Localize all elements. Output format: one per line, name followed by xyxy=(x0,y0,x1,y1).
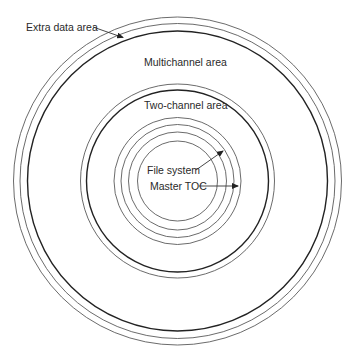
two-channel-area-label: Two-channel area xyxy=(144,99,227,111)
multichannel-area-label: Multichannel area xyxy=(144,56,227,68)
extra-data-area-label: Extra data area xyxy=(26,21,98,33)
file-system-label: File system xyxy=(147,164,200,176)
master-toc-label: Master TOC xyxy=(150,180,207,192)
